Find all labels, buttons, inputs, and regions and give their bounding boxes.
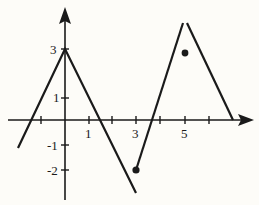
graph-segment-2-rising [136,23,183,170]
closed-dot-3-neg2 [132,166,139,173]
x-label-1: 1 [85,126,92,141]
y-label-neg2: -2 [47,163,58,178]
isolated-dot-5-3 [182,50,189,57]
y-label-1: 1 [53,90,60,105]
x-label-3: 3 [132,126,139,141]
x-label-5: 5 [181,126,188,141]
y-label-neg1: -1 [47,138,58,153]
graph-segment-2-falling [187,23,233,120]
graph-segment-1 [18,49,136,193]
piecewise-graph: 3 1 -1 -2 1 3 5 [0,0,259,205]
y-label-3: 3 [50,42,57,57]
